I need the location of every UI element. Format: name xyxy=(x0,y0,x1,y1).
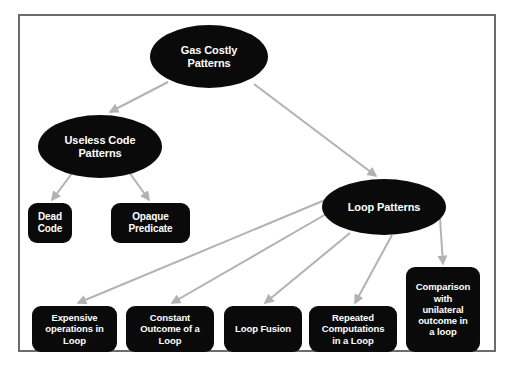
node-loop-fusion[interactable]: Loop Fusion xyxy=(224,306,302,352)
node-comparison-with-unilateral-outcome-in-a-loop-label: Comparison with unilateral outcome in a … xyxy=(413,281,473,337)
node-opaque-predicate[interactable]: Opaque Predicate xyxy=(111,203,190,243)
node-dead-code[interactable]: Dead Code xyxy=(28,203,72,243)
node-gas-costly-patterns-label: Gas Costly Patterns xyxy=(178,44,240,70)
node-loop-patterns[interactable]: Loop Patterns xyxy=(322,179,446,235)
node-useless-code-patterns-label: Useless Code Patterns xyxy=(62,134,139,160)
node-repeated-computations-in-a-loop-label: Repeated Computations in a Loop xyxy=(319,312,388,346)
node-repeated-computations-in-a-loop[interactable]: Repeated Computations in a Loop xyxy=(309,306,397,352)
node-comparison-with-unilateral-outcome-in-a-loop[interactable]: Comparison with unilateral outcome in a … xyxy=(406,267,480,352)
node-loop-patterns-label: Loop Patterns xyxy=(345,201,424,214)
node-dead-code-label: Dead Code xyxy=(35,211,66,235)
node-opaque-predicate-label: Opaque Predicate xyxy=(125,211,175,235)
node-gas-costly-patterns[interactable]: Gas Costly Patterns xyxy=(150,25,268,88)
node-expensive-operations-in-loop[interactable]: Expensive operations in Loop xyxy=(32,306,117,352)
node-useless-code-patterns[interactable]: Useless Code Patterns xyxy=(38,115,162,178)
node-constant-outcome-of-a-loop-label: Constant Outcome of a Loop xyxy=(137,312,203,346)
node-constant-outcome-of-a-loop[interactable]: Constant Outcome of a Loop xyxy=(126,306,214,352)
node-expensive-operations-in-loop-label: Expensive operations in Loop xyxy=(42,312,106,346)
node-loop-fusion-label: Loop Fusion xyxy=(232,323,294,334)
